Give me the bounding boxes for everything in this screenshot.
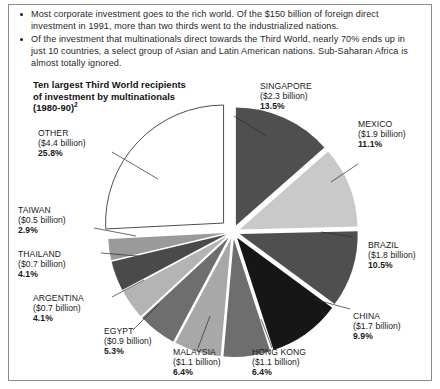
slice-name: THAILAND [18, 249, 66, 259]
slice-name: ARGENTINA [33, 293, 84, 303]
chart-title-line-2: of investment by multinationals [33, 91, 175, 102]
slice-percent: 6.4% [252, 367, 306, 377]
slice-percent: 2.9% [18, 225, 66, 235]
slice-amount: ($0.7 billion) [33, 303, 84, 313]
slice-name: MALAYSIA [173, 347, 221, 357]
notes-list: Most corporate investment goes to the ri… [18, 8, 422, 70]
slice-label-taiwan: TAIWAN ($0.5 billion) 2.9% [18, 205, 66, 236]
bullet-dot-icon [20, 13, 23, 16]
slice-name: OTHER [38, 128, 86, 138]
slice-percent: 5.3% [104, 346, 152, 356]
chart-page: Most corporate investment goes to the ri… [0, 0, 440, 389]
list-item: Most corporate investment goes to the ri… [18, 8, 422, 32]
slice-name: EGYPT [104, 326, 152, 336]
slice-percent: 9.9% [353, 331, 401, 341]
slice-amount: ($1.1 billion) [173, 357, 221, 367]
slice-amount: ($1.1 billion) [252, 357, 306, 367]
slice-label-argentina: ARGENTINA ($0.7 billion) 4.1% [33, 293, 84, 324]
slice-name: MEXICO [358, 119, 406, 129]
slice-name: HONG KONG [252, 347, 306, 357]
slice-name: TAIWAN [18, 205, 66, 215]
slice-percent: 13.5% [260, 101, 312, 111]
slice-amount: ($4.4 billion) [38, 138, 86, 148]
slice-amount: ($2.3 billion) [260, 91, 312, 101]
chart-title-footnote-marker: 2 [74, 101, 78, 108]
slice-name: BRAZIL [368, 240, 416, 250]
slice-label-malaysia: MALAYSIA ($1.1 billion) 6.4% [173, 347, 221, 378]
slice-amount: ($1.8 billion) [368, 250, 416, 260]
slice-percent: 10.5% [368, 260, 416, 270]
slice-amount: ($0.9 billion) [104, 336, 152, 346]
slice-percent: 6.4% [173, 367, 221, 377]
slice-label-mexico: MEXICO ($1.9 billion) 11.1% [358, 119, 406, 150]
slice-label-hong-kong: HONG KONG ($1.1 billion) 6.4% [252, 347, 306, 378]
slice-name: CHINA [353, 311, 401, 321]
note-text: Most corporate investment goes to the ri… [31, 9, 379, 31]
slice-label-singapore: SINGAPORE ($2.3 billion) 13.5% [260, 81, 312, 112]
slice-label-thailand: THAILAND ($0.7 billion) 4.1% [18, 249, 66, 280]
list-item: Of the investment that multinationals di… [18, 33, 422, 69]
slice-name: SINGAPORE [260, 81, 312, 91]
slice-amount: ($1.9 billion) [358, 129, 406, 139]
slice-amount: ($1.7 billion) [353, 321, 401, 331]
slice-percent: 4.1% [33, 313, 84, 323]
slice-label-china: CHINA ($1.7 billion) 9.9% [353, 311, 401, 342]
slice-label-brazil: BRAZIL ($1.8 billion) 10.5% [368, 240, 416, 271]
chart-title-line-3: (1980-90) [33, 102, 74, 113]
slice-percent: 25.8% [38, 148, 86, 158]
slice-label-other: OTHER ($4.4 billion) 25.8% [38, 128, 86, 159]
note-text: Of the investment that multinationals di… [31, 34, 408, 68]
slice-label-egypt: EGYPT ($0.9 billion) 5.3% [104, 326, 152, 357]
slice-amount: ($0.5 billion) [18, 215, 66, 225]
chart-title-line-1: Ten largest Third World recipients [33, 79, 186, 90]
slice-amount: ($0.7 billion) [18, 259, 66, 269]
bullet-dot-icon [20, 38, 23, 41]
chart-title: Ten largest Third World recipients of in… [33, 79, 248, 114]
slice-percent: 4.1% [18, 269, 66, 279]
slice-percent: 11.1% [358, 139, 406, 149]
